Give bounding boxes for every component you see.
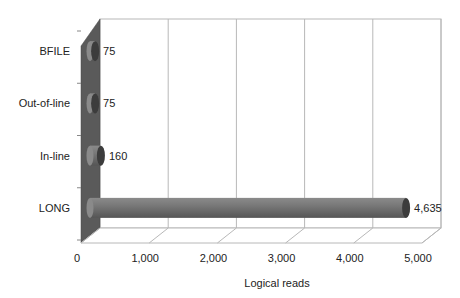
bar-end-cap: [402, 198, 410, 218]
category-labels: BFILEOut-of-lineIn-lineLONG: [19, 45, 70, 214]
category-label: LONG: [39, 202, 70, 214]
category-label: BFILE: [39, 45, 70, 57]
bar-start-cap: [87, 146, 94, 166]
data-label: 160: [109, 150, 127, 162]
x-tick-label: 0: [74, 252, 80, 264]
x-tick-label: 3,000: [268, 252, 296, 264]
bar-end-cap: [91, 93, 99, 113]
bar-chart: 75751604,635 BFILEOut-of-lineIn-lineLONG…: [0, 0, 460, 298]
back-wall: [100, 19, 441, 228]
bar-end-cap: [91, 41, 99, 61]
x-tick-labels: 01,0002,0003,0004,0005,000: [74, 252, 432, 264]
x-tick-label: 2,000: [200, 252, 228, 264]
data-label: 4,635: [414, 202, 442, 214]
x-axis-title: Logical reads: [244, 277, 310, 289]
floor: [81, 228, 441, 243]
x-tick-label: 1,000: [131, 252, 159, 264]
x-tick-label: 5,000: [404, 252, 432, 264]
bar-end-cap: [97, 146, 105, 166]
data-label: 75: [103, 45, 115, 57]
category-label: In-line: [40, 150, 70, 162]
bar-long: 4,635: [87, 198, 442, 218]
data-label: 75: [103, 97, 115, 109]
category-label: Out-of-line: [19, 97, 70, 109]
bar-start-cap: [87, 198, 94, 218]
x-tick-label: 4,000: [336, 252, 364, 264]
bar-body: [90, 198, 406, 218]
